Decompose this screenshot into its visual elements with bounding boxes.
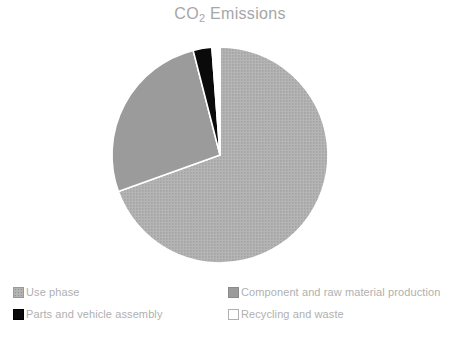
chart-title-subscript: 2 [199,12,205,24]
legend-label-parts-assembly: Parts and vehicle assembly [26,308,163,320]
pie-slices-group [112,47,328,263]
black-swatch-icon [13,309,24,320]
legend-item-parts-assembly[interactable]: Parts and vehicle assembly [13,308,163,320]
chart-legend: Use phase Component and raw material pro… [0,282,460,334]
solid-gray-swatch-icon [228,287,239,298]
legend-item-component-production[interactable]: Component and raw material production [228,286,440,298]
white-swatch-icon [228,309,239,320]
chart-title: CO2 Emissions [0,5,460,23]
chart-title-prefix: CO [174,5,199,22]
chart-container: CO2 Emissions Use phase Component and ra… [0,0,460,346]
pie-chart-svg [106,40,334,270]
dotted-gray-swatch-icon [13,287,24,298]
legend-label-recycling-waste: Recycling and waste [241,308,344,320]
legend-label-component-production: Component and raw material production [241,286,440,298]
legend-item-recycling-waste[interactable]: Recycling and waste [228,308,344,320]
chart-title-suffix: Emissions [205,5,285,22]
legend-item-use-phase[interactable]: Use phase [13,286,80,298]
pie-plot-area [106,40,334,270]
legend-label-use-phase: Use phase [26,286,80,298]
